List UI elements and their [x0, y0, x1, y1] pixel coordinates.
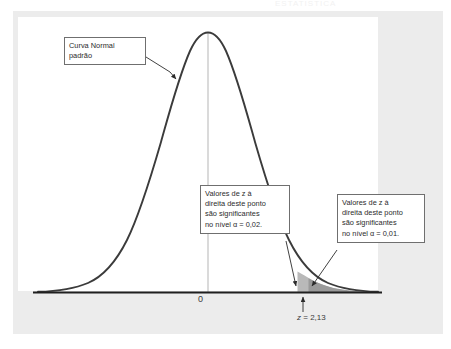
z-symbol: z: [297, 313, 301, 322]
leader-alpha-002: [286, 241, 296, 286]
callout-alpha-001: Valores de z à direita deste ponto são s…: [337, 194, 425, 243]
axis-label-z-critical: z = 2,13: [297, 313, 326, 322]
leader-curva-normal: [146, 57, 176, 79]
z-value: = 2,13: [303, 313, 325, 322]
callout-curva-normal-padrao: Curva Normal padrão: [64, 37, 146, 65]
axis-label-zero: 0: [198, 294, 203, 304]
callout-alpha-002: Valores de z à direita deste ponto são s…: [200, 185, 290, 234]
